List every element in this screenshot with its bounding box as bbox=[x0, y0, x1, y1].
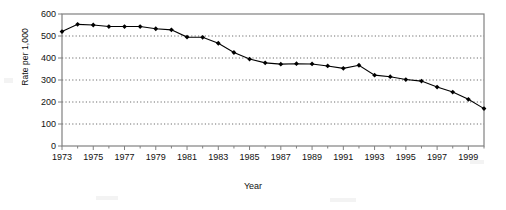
data-point bbox=[247, 57, 252, 62]
data-point bbox=[263, 60, 268, 65]
data-point bbox=[419, 79, 424, 84]
data-point bbox=[232, 50, 237, 55]
series-markers bbox=[60, 22, 487, 111]
chart-container: Rate per 1,000 Year 0100200300400500600 … bbox=[0, 0, 506, 210]
y-tick-label: 0 bbox=[22, 142, 56, 151]
data-point bbox=[294, 61, 299, 66]
data-point bbox=[482, 106, 487, 111]
data-point bbox=[278, 62, 283, 67]
data-point bbox=[60, 29, 65, 34]
data-point bbox=[185, 35, 190, 40]
data-point bbox=[403, 77, 408, 82]
data-point bbox=[388, 74, 393, 79]
data-point bbox=[122, 24, 127, 29]
y-tick-label: 200 bbox=[22, 98, 56, 107]
y-tick-label: 600 bbox=[22, 10, 56, 19]
data-point bbox=[325, 64, 330, 69]
data-point bbox=[435, 85, 440, 90]
plot-area bbox=[0, 0, 506, 210]
x-tick-label: 1999 bbox=[448, 153, 488, 162]
data-point bbox=[310, 62, 315, 67]
data-point bbox=[138, 24, 143, 29]
data-point bbox=[106, 24, 111, 29]
data-point bbox=[75, 22, 80, 27]
data-point bbox=[216, 41, 221, 46]
data-point bbox=[450, 90, 455, 95]
series-line bbox=[62, 24, 484, 108]
data-point bbox=[200, 35, 205, 40]
y-tick-label: 400 bbox=[22, 54, 56, 63]
y-tick-label: 300 bbox=[22, 76, 56, 85]
data-point bbox=[466, 97, 471, 102]
x-axis-ticks bbox=[62, 146, 484, 150]
y-tick-label: 500 bbox=[22, 32, 56, 41]
y-tick-label: 100 bbox=[22, 120, 56, 129]
data-point bbox=[169, 27, 174, 32]
data-point bbox=[91, 23, 96, 28]
data-point bbox=[341, 66, 346, 71]
data-point bbox=[153, 26, 158, 31]
